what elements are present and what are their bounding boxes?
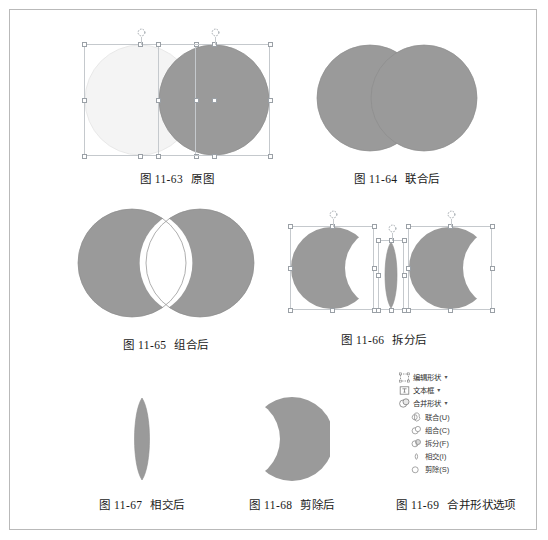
resize-handle-e[interactable] bbox=[268, 98, 273, 103]
caption-11-64: 图 11-64联合后 bbox=[300, 170, 494, 186]
fig-11-67-intersect-shape bbox=[126, 396, 158, 482]
caption-number: 图 11-66 bbox=[341, 334, 384, 346]
resize-handle-sw[interactable] bbox=[82, 154, 87, 159]
rotate-handle-icon[interactable] bbox=[388, 224, 397, 233]
caption-number: 图 11-68 bbox=[249, 499, 292, 511]
resize-handle-nw[interactable] bbox=[156, 42, 161, 47]
resize-handle-w[interactable] bbox=[156, 98, 161, 103]
resize-handle-sw[interactable] bbox=[288, 308, 293, 313]
caption-title: 拆分后 bbox=[392, 334, 426, 346]
merge-shapes-icon bbox=[399, 398, 410, 409]
selection-box-piece-3[interactable] bbox=[408, 226, 492, 310]
rotate-handle-icon[interactable] bbox=[329, 210, 338, 219]
menu-item-fragment[interactable]: 拆分(F) bbox=[398, 437, 490, 450]
caption-title: 组合后 bbox=[174, 339, 208, 351]
menu-item-label: 相交(I) bbox=[425, 452, 446, 461]
figure-11-64: 图 11-64联合后 bbox=[316, 44, 478, 170]
figure-11-63: 图 11-63原图 bbox=[84, 30, 270, 170]
resize-handle-w[interactable] bbox=[288, 266, 293, 271]
rotate-handle-stem bbox=[215, 37, 216, 45]
resize-handle-e[interactable] bbox=[402, 273, 407, 278]
resize-handle-e[interactable] bbox=[490, 266, 495, 271]
resize-handle-w[interactable] bbox=[406, 266, 411, 271]
caption-11-63: 图 11-63原图 bbox=[74, 170, 280, 186]
fig-11-65-canvas bbox=[76, 208, 256, 318]
fig-11-67-canvas bbox=[126, 396, 158, 482]
resize-handle-nw[interactable] bbox=[376, 238, 381, 243]
chevron-down-icon[interactable]: ▾ bbox=[444, 399, 447, 408]
chevron-down-icon[interactable]: ▾ bbox=[444, 373, 447, 382]
caption-number: 图 11-65 bbox=[123, 339, 166, 351]
resize-handle-s[interactable] bbox=[138, 154, 143, 159]
caption-11-65: 图 11-65组合后 bbox=[62, 336, 270, 352]
selection-box-piece-2[interactable] bbox=[378, 240, 404, 310]
edit-shape-icon bbox=[399, 372, 410, 383]
resize-handle-s[interactable] bbox=[448, 308, 453, 313]
menu-item-text-box[interactable]: 文本框 ▾ bbox=[398, 384, 490, 397]
resize-handle-w[interactable] bbox=[82, 98, 87, 103]
fig-11-65-combine-shape bbox=[76, 208, 256, 318]
menu-item-union[interactable]: 联合(U) bbox=[398, 411, 490, 424]
menu-item-label: 编辑形状 bbox=[413, 373, 441, 382]
resize-handle-nw[interactable] bbox=[288, 224, 293, 229]
rotate-handle-icon[interactable] bbox=[447, 210, 456, 219]
resize-handle-e[interactable] bbox=[372, 266, 377, 271]
fig-11-64-union-shape bbox=[316, 44, 478, 152]
menu-item-intersect[interactable]: 相交(I) bbox=[398, 450, 490, 463]
rotate-handle-stem bbox=[392, 233, 393, 241]
rotate-handle-icon[interactable] bbox=[137, 28, 146, 37]
resize-handle-s[interactable] bbox=[389, 308, 394, 313]
rotate-handle-stem bbox=[333, 219, 334, 227]
resize-handle-sw[interactable] bbox=[376, 308, 381, 313]
caption-number: 图 11-63 bbox=[140, 173, 183, 185]
caption-title: 合并形状选项 bbox=[447, 499, 515, 511]
resize-handle-sw[interactable] bbox=[156, 154, 161, 159]
resize-handle-w[interactable] bbox=[376, 273, 381, 278]
subtract-icon bbox=[411, 464, 422, 475]
chevron-down-icon[interactable]: ▾ bbox=[437, 386, 440, 395]
resize-handle-ne[interactable] bbox=[490, 224, 495, 229]
fig-11-68-subtract-shape bbox=[254, 396, 330, 482]
menu-item-combine[interactable]: 组合(C) bbox=[398, 424, 490, 437]
figure-11-67: 图 11-67相交后 bbox=[122, 396, 182, 512]
selection-box-piece-1[interactable] bbox=[290, 226, 374, 310]
combine-icon bbox=[411, 425, 422, 436]
menu-item-label: 剪除(S) bbox=[425, 465, 449, 474]
resize-handle-s[interactable] bbox=[330, 308, 335, 313]
resize-handle-se[interactable] bbox=[268, 154, 273, 159]
union-icon bbox=[411, 412, 422, 423]
selection-box-right-shape[interactable] bbox=[158, 44, 270, 156]
caption-11-68: 图 11-68剪除后 bbox=[204, 496, 380, 512]
resize-handle-sw[interactable] bbox=[406, 308, 411, 313]
figure-11-65: 图 11-65组合后 bbox=[76, 208, 256, 338]
text-box-icon bbox=[399, 385, 410, 396]
menu-item-merge-shapes[interactable]: 合并形状 ▾ bbox=[398, 397, 490, 410]
intersect-icon bbox=[411, 451, 422, 462]
merge-shapes-menu[interactable]: 编辑形状 ▾ 文本框 ▾ 合并形状 ▾ bbox=[398, 371, 490, 477]
figure-11-66: 图 11-66拆分后 bbox=[286, 214, 482, 338]
menu-item-subtract[interactable]: 剪除(S) bbox=[398, 463, 490, 476]
caption-number: 图 11-67 bbox=[99, 499, 142, 511]
resize-handle-se[interactable] bbox=[490, 308, 495, 313]
resize-handle-s[interactable] bbox=[212, 154, 217, 159]
menu-item-label: 合并形状 bbox=[413, 399, 441, 408]
figure-plate-page: 图 11-63原图 图 11-64联合后 bbox=[0, 0, 548, 540]
rotate-handle-icon[interactable] bbox=[211, 28, 220, 37]
menu-item-label: 文本框 bbox=[413, 386, 434, 395]
resize-handle-ne[interactable] bbox=[402, 238, 407, 243]
resize-handle-nw[interactable] bbox=[82, 42, 87, 47]
caption-number: 图 11-64 bbox=[354, 173, 397, 185]
rotate-handle-stem bbox=[141, 37, 142, 45]
menu-item-edit-shape[interactable]: 编辑形状 ▾ bbox=[398, 371, 490, 384]
resize-handle-ne[interactable] bbox=[372, 224, 377, 229]
resize-handle-ne[interactable] bbox=[268, 42, 273, 47]
caption-11-69: 图 11-69合并形状选项 bbox=[376, 496, 536, 512]
caption-title: 相交后 bbox=[150, 499, 184, 511]
resize-handle-nw[interactable] bbox=[406, 224, 411, 229]
caption-title: 联合后 bbox=[405, 173, 439, 185]
shape-center-handle[interactable] bbox=[212, 98, 217, 103]
fig-11-68-canvas bbox=[254, 396, 330, 482]
figure-11-68: 图 11-68剪除后 bbox=[254, 396, 346, 512]
rotate-handle-stem bbox=[451, 219, 452, 227]
menu-item-label: 拆分(F) bbox=[425, 439, 449, 448]
